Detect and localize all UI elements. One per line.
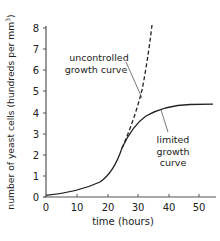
- x-tick-label: 0: [43, 202, 49, 213]
- x-tick-label: 20: [102, 202, 115, 213]
- x-tick-label: 10: [71, 202, 84, 213]
- y-tick-label: 6: [33, 65, 39, 76]
- y-tick-label: 0: [33, 192, 39, 203]
- x-tick-label: 30: [132, 202, 145, 213]
- uncontrolled-annotation: uncontrolled growth curve: [65, 52, 142, 98]
- uncontrolled-leader-line: [126, 62, 142, 98]
- y-tick-label: 7: [33, 44, 39, 55]
- limited-annotation: limited growth curve: [156, 110, 189, 168]
- y-tick-label: 2: [33, 150, 39, 161]
- y-tick-label: 3: [33, 129, 39, 140]
- y-tick-labels: 0 1 2 3 4 5 6 7 8: [33, 23, 39, 203]
- yeast-growth-chart: 0 1 2 3 4 5 6 7 8 0 10 20 30 40 50 time …: [0, 0, 220, 241]
- x-axis-title: time (hours): [92, 216, 154, 227]
- y-tick-label: 5: [33, 86, 39, 97]
- limited-label-line2: growth: [156, 146, 189, 157]
- uncontrolled-label-line2: growth curve: [65, 64, 128, 75]
- y-tick-label: 8: [33, 23, 39, 34]
- y-tick-label: 1: [33, 171, 39, 182]
- x-tick-label: 50: [193, 202, 206, 213]
- uncontrolled-label-line1: uncontrolled: [69, 52, 129, 63]
- limited-leader-line: [161, 110, 168, 132]
- x-tick-label: 40: [163, 202, 176, 213]
- y-axis-title: number of yeast cells (hundreds per mm3): [4, 14, 16, 209]
- x-tick-labels: 0 10 20 30 40 50: [43, 202, 206, 213]
- y-tick-label: 4: [33, 108, 39, 119]
- limited-label-line3: curve: [160, 157, 187, 168]
- limited-label-line1: limited: [157, 134, 190, 145]
